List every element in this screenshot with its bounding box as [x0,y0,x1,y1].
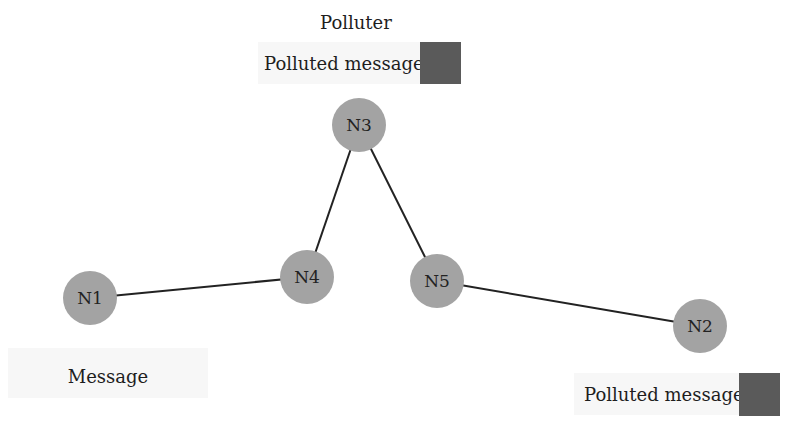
edge-n5-n2 [437,281,700,326]
node-n3: N3 [332,98,386,152]
node-label: N4 [294,267,320,287]
polluter-message-box: Polluted message [258,42,424,84]
node-label: N1 [77,288,103,308]
node-label: N5 [424,271,450,291]
polluter-message-text: Polluted message [264,53,424,74]
polluted-swatch-bottom [739,373,780,416]
node-n5: N5 [410,254,464,308]
node-label: N2 [687,316,713,336]
polluted-swatch-top [420,42,461,84]
node-label: N3 [346,115,372,135]
node-n2: N2 [673,299,727,353]
edge-n1-n4 [90,277,307,298]
polluter-label: Polluter [320,12,392,33]
node-n1: N1 [63,271,117,325]
source-message-text: Message [68,366,148,387]
destination-message-text: Polluted message [584,384,744,405]
source-message-box: Message [8,348,208,398]
destination-message-box: Polluted message [574,373,744,415]
node-n4: N4 [280,250,334,304]
